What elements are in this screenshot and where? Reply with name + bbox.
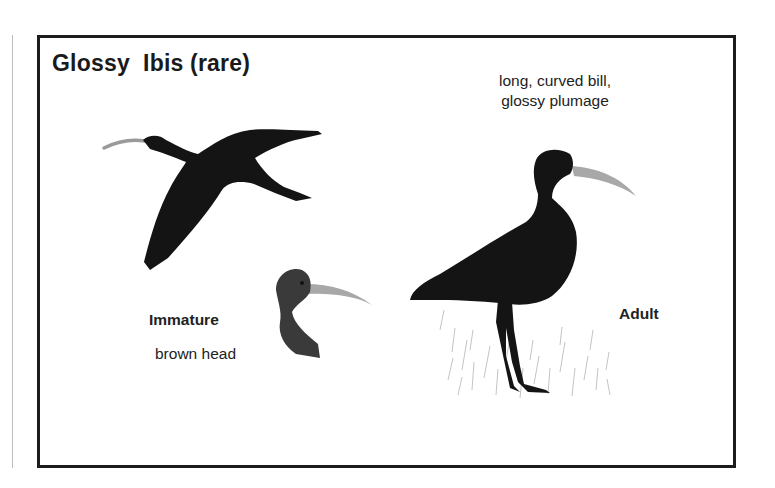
flying-ibis-illustration — [104, 129, 322, 270]
plate-title: Glossy Ibis (rare) — [52, 50, 250, 77]
adult-label: Adult — [619, 305, 659, 323]
adult-ibis-illustration — [410, 150, 636, 393]
immature-note: brown head — [155, 345, 236, 363]
caption-line-2: glossy plumage — [455, 91, 655, 111]
immature-ibis-head-illustration — [276, 269, 372, 358]
caption-line-1: long, curved bill, — [455, 71, 655, 91]
immature-label: Immature — [149, 311, 219, 329]
adult-caption: long, curved bill, glossy plumage — [455, 71, 655, 111]
